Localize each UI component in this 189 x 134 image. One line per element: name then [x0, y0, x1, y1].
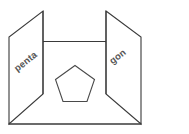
pentagon-box-diagram: penta gon	[0, 0, 189, 134]
diagram-canvas: penta gon	[0, 0, 189, 134]
